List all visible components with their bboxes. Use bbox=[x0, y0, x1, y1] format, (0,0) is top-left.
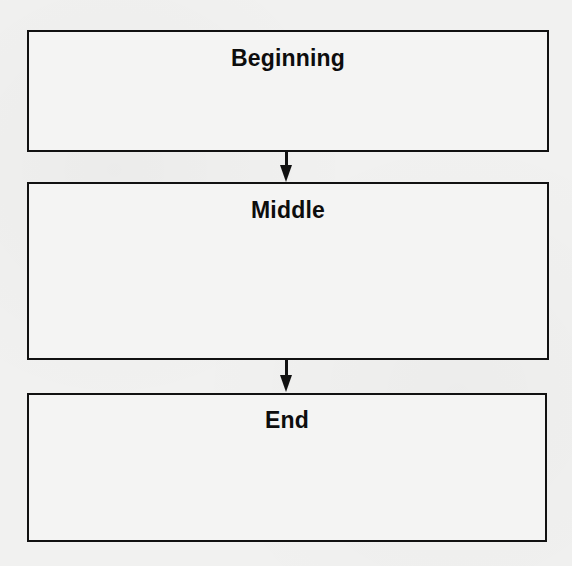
arrow-down-icon bbox=[276, 151, 296, 182]
box-middle-label: Middle bbox=[29, 197, 547, 224]
arrowhead bbox=[280, 165, 292, 182]
box-beginning: Beginning bbox=[27, 30, 549, 152]
box-middle: Middle bbox=[27, 182, 549, 360]
box-beginning-label: Beginning bbox=[29, 45, 547, 72]
box-end-label: End bbox=[29, 407, 545, 434]
arrow-down-icon bbox=[276, 359, 296, 393]
box-end: End bbox=[27, 393, 547, 542]
arrowhead bbox=[280, 375, 292, 392]
